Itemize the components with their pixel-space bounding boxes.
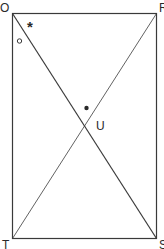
- vertex-label-S: S: [159, 239, 164, 249]
- intersection-label-U: U: [96, 120, 105, 132]
- vertex-label-O: O: [0, 2, 9, 14]
- circle-marker-icon: [17, 39, 21, 43]
- dot-marker-icon: [84, 106, 88, 110]
- asterisk-marker-icon: *: [27, 19, 33, 34]
- vertex-label-R: R: [159, 2, 164, 14]
- rectangle-diagram: [0, 0, 164, 249]
- vertex-label-T: T: [2, 239, 9, 249]
